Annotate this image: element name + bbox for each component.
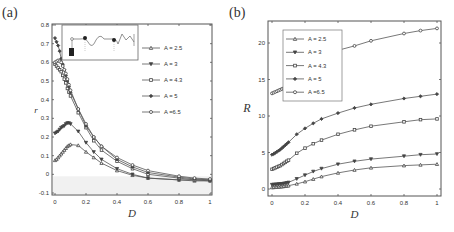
legend-item: A = 5 xyxy=(142,93,177,99)
diamond-marker-icon xyxy=(402,97,405,100)
x-tick-label: 0.2 xyxy=(301,200,310,206)
triangle-up-marker-icon xyxy=(419,163,422,166)
triangle-up-marker-icon xyxy=(320,175,323,178)
diamond-marker-icon xyxy=(149,94,152,97)
x-axis-label: D xyxy=(350,208,359,220)
triangle-up-marker-icon xyxy=(303,180,306,183)
legend-label: A = 5 xyxy=(308,76,321,82)
x-tick-label: 0.4 xyxy=(334,200,343,206)
y-tick-label: 0.2 xyxy=(41,134,50,140)
circle-marker-icon xyxy=(178,175,181,178)
y-axis-label: r xyxy=(34,105,38,115)
triangle-down-marker-icon xyxy=(312,170,315,173)
square-marker-icon xyxy=(294,64,297,67)
triangle-up-marker-icon xyxy=(402,164,405,167)
legend-label: A = 2.5 xyxy=(164,45,182,51)
y-axis-label: R xyxy=(242,101,251,115)
diamond-marker-icon xyxy=(353,106,356,109)
triangle-down-marker-icon xyxy=(149,63,152,66)
diamond-marker-icon xyxy=(435,93,438,96)
square-marker-icon xyxy=(60,70,63,73)
triangle-up-marker-icon xyxy=(149,46,152,49)
triangle-up-marker-icon xyxy=(369,166,372,169)
circle-marker-icon xyxy=(60,61,63,64)
square-marker-icon xyxy=(63,78,66,81)
triangle-up-marker-icon xyxy=(295,182,298,185)
triangle-up-marker-icon xyxy=(77,144,80,147)
diamond-marker-icon xyxy=(53,36,56,39)
square-marker-icon xyxy=(312,142,315,145)
square-marker-icon xyxy=(150,79,153,82)
y-tick-label: 10 xyxy=(258,113,265,119)
diamond-marker-icon xyxy=(57,44,60,47)
x-axis-label: D xyxy=(127,207,136,219)
triangle-up-marker-icon xyxy=(312,178,315,181)
square-marker-icon xyxy=(61,74,64,77)
circle-marker-icon xyxy=(419,29,422,32)
square-marker-icon xyxy=(77,111,80,114)
triangle-down-marker-icon xyxy=(369,158,372,161)
circle-marker-icon xyxy=(61,65,64,68)
panel-label: (b) xyxy=(229,5,246,21)
square-marker-icon xyxy=(419,118,422,121)
y-tick-label: 20 xyxy=(258,40,265,46)
diamond-marker-icon xyxy=(336,111,339,114)
series-line xyxy=(54,59,212,180)
circle-marker-icon xyxy=(92,136,95,139)
x-tick-label: 0.8 xyxy=(400,200,409,206)
diamond-marker-icon xyxy=(369,103,372,106)
triangle-up-marker-icon xyxy=(435,163,438,166)
circle-marker-icon xyxy=(193,177,196,180)
square-marker-icon xyxy=(353,129,356,132)
y-tick-label: 5 xyxy=(262,150,266,156)
x-tick-label: 0.4 xyxy=(113,199,122,205)
legend-item: A = 3 xyxy=(142,61,177,67)
square-marker-icon xyxy=(337,133,340,136)
legend-item: A =6.5 xyxy=(142,109,181,115)
y-tick-label: 0 xyxy=(262,186,266,192)
x-tick-label: 0.8 xyxy=(175,199,184,205)
y-tick-label: 0.8 xyxy=(41,22,50,28)
x-tick-label: 0.2 xyxy=(82,199,91,205)
triangle-down-marker-icon xyxy=(419,153,422,156)
legend-item: A = 4.3 xyxy=(142,77,182,83)
x-tick-label: 0.6 xyxy=(367,200,376,206)
circle-marker-icon xyxy=(69,89,72,92)
series-line xyxy=(270,163,438,189)
circle-marker-icon xyxy=(63,68,66,71)
legend-label: A = 4.3 xyxy=(164,77,182,83)
panel-label: (a) xyxy=(2,5,18,21)
square-marker-icon xyxy=(92,139,95,142)
y-tick-label: 0.7 xyxy=(41,41,50,47)
x-tick-label: 1 xyxy=(435,200,439,206)
triangle-up-marker-icon xyxy=(69,143,72,146)
inset-diagram xyxy=(62,25,138,60)
legend-label: A = 4.3 xyxy=(308,63,326,69)
diamond-marker-icon xyxy=(58,50,61,53)
circle-marker-icon xyxy=(116,156,119,159)
circle-marker-icon xyxy=(131,164,134,167)
circle-marker-icon xyxy=(370,39,373,42)
panel-b: 00.20.40.60.8105101520DR(b)A = 2.5A = 3A… xyxy=(227,0,454,232)
x-tick-label: 1 xyxy=(208,199,212,205)
diamond-marker-icon xyxy=(320,117,323,120)
square-marker-icon xyxy=(403,121,406,124)
circle-marker-icon xyxy=(85,122,88,125)
triangle-down-marker-icon xyxy=(295,178,298,181)
y-tick-label: 15 xyxy=(258,77,265,83)
legend-label: A =6.5 xyxy=(164,109,181,115)
panel-a: 00.20.40.60.81-0.100.10.20.30.40.50.60.7… xyxy=(0,0,227,232)
series-line xyxy=(270,93,438,157)
triangle-down-marker-icon xyxy=(402,155,405,158)
x-tick-label: 0 xyxy=(270,200,274,206)
triangle-down-marker-icon xyxy=(303,174,306,177)
square-marker-icon xyxy=(370,125,373,128)
y-tick-label: 0 xyxy=(46,171,50,177)
triangle-down-marker-icon xyxy=(100,158,103,161)
square-marker-icon xyxy=(100,149,103,152)
circle-marker-icon xyxy=(68,83,71,86)
legend-label: A = 2.5 xyxy=(308,36,326,42)
legend-label: A = 3 xyxy=(164,61,177,67)
circle-marker-icon xyxy=(353,44,356,47)
y-tick-label: 0.1 xyxy=(41,153,50,159)
